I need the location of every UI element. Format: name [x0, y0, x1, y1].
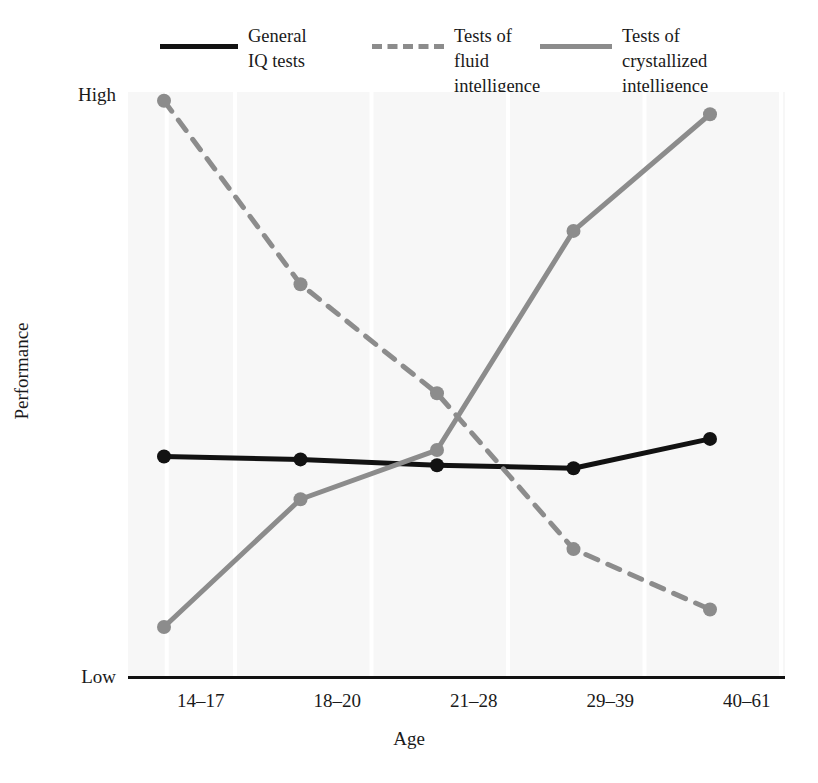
- legend-label-tests-of-fluid-intelligence: Tests of fluid intelligence: [454, 24, 540, 99]
- data-point: [567, 542, 581, 556]
- y-axis-low-label: Low: [20, 666, 116, 688]
- data-point: [430, 443, 444, 457]
- gridlines: [167, 92, 781, 678]
- data-point: [567, 224, 581, 238]
- figure-chart: General IQ tests Tests of fluid intellig…: [0, 0, 818, 783]
- y-axis-title: Performance: [11, 291, 33, 451]
- x-tick-label: 18–20: [282, 690, 392, 712]
- x-tick-label: 14–17: [146, 690, 256, 712]
- legend-swatch-solid-black-icon: [160, 44, 238, 49]
- data-point: [294, 452, 308, 466]
- legend-swatch-solid-gray-icon: [540, 44, 612, 49]
- x-axis-tick-labels: 14–1718–2021–2829–3940–61: [128, 690, 785, 720]
- data-point: [703, 432, 717, 446]
- plot-canvas: [128, 92, 785, 678]
- legend-swatch-dashed-gray-icon: [372, 44, 444, 49]
- x-tick-label: 29–39: [555, 690, 665, 712]
- series-line-tests-of-fluid-intelligence: [164, 101, 710, 610]
- series-line-tests-of-crystallized-intelligence: [164, 114, 710, 627]
- data-point: [703, 602, 717, 616]
- data-point: [703, 107, 717, 121]
- x-tick-label: 40–61: [692, 690, 802, 712]
- data-point: [294, 492, 308, 506]
- data-point: [157, 620, 171, 634]
- x-axis-title: Age: [0, 728, 818, 750]
- x-tick-label: 21–28: [419, 690, 529, 712]
- legend-label-tests-of-crystallized-intelligence: Tests of crystallized intelligence: [622, 24, 708, 99]
- caption-strip: [0, 766, 818, 783]
- data-point: [430, 458, 444, 472]
- plot-area: [128, 92, 785, 678]
- data-point: [430, 386, 444, 400]
- data-point: [567, 461, 581, 475]
- legend-label-general-iq-tests: General IQ tests: [248, 24, 307, 74]
- chart-legend: General IQ tests Tests of fluid intellig…: [0, 24, 818, 86]
- data-point: [157, 94, 171, 108]
- series-lines: [164, 101, 710, 627]
- data-point: [157, 449, 171, 463]
- x-axis-line: [128, 676, 785, 679]
- data-point: [294, 277, 308, 291]
- y-axis-high-label: High: [20, 84, 116, 106]
